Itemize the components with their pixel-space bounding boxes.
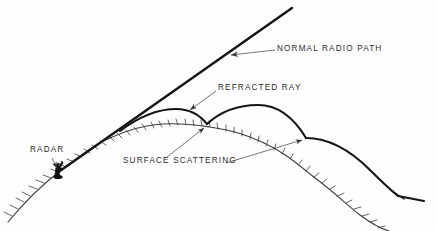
refracted-ray-group bbox=[120, 105, 424, 201]
label-radar: RADAR bbox=[30, 146, 64, 154]
refracted-ray-hop-2 bbox=[207, 105, 306, 138]
label-refracted-ray: REFRACTED RAY bbox=[218, 84, 302, 92]
diagram-canvas bbox=[0, 0, 437, 231]
earth-surface-group bbox=[4, 119, 389, 231]
label-surface-scattering: SURFACE SCATTERING bbox=[123, 157, 237, 165]
leader-refracted-ray bbox=[190, 91, 216, 110]
leader-surface-scattering-1 bbox=[167, 128, 204, 157]
radar-propagation-diagram: NORMAL RADIO PATH REFRACTED RAY SURFACE … bbox=[0, 0, 437, 231]
leader-radar bbox=[52, 158, 57, 168]
refracted-ray-touchdown-stub bbox=[392, 191, 404, 199]
leader-normal-radio-path bbox=[231, 50, 275, 55]
earth-surface-curve bbox=[8, 124, 389, 231]
refracted-ray-hop-3 bbox=[306, 138, 398, 196]
label-normal-radio-path: NORMAL RADIO PATH bbox=[277, 45, 382, 53]
